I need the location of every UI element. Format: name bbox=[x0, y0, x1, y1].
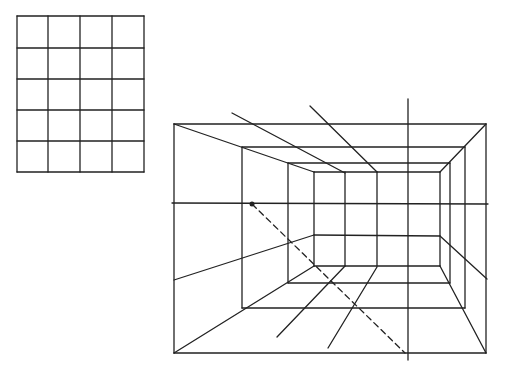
ceiling-left-corner-ray bbox=[174, 124, 314, 172]
perspective-sketch bbox=[0, 0, 510, 374]
dashed-diagonal-line bbox=[252, 204, 405, 353]
floor-left-corner-ray bbox=[174, 266, 314, 353]
back-wall-midline bbox=[314, 235, 440, 236]
wall-ray bbox=[440, 236, 487, 279]
vanishing-point-dot bbox=[250, 202, 255, 207]
ceiling-ray bbox=[310, 106, 377, 172]
floor-ray bbox=[277, 266, 345, 337]
ceiling-right-corner-ray bbox=[440, 124, 486, 172]
wall-ray bbox=[174, 235, 314, 280]
flat-grid bbox=[17, 16, 144, 172]
floor-right-corner-ray bbox=[440, 266, 486, 353]
perspective-room bbox=[172, 99, 488, 360]
